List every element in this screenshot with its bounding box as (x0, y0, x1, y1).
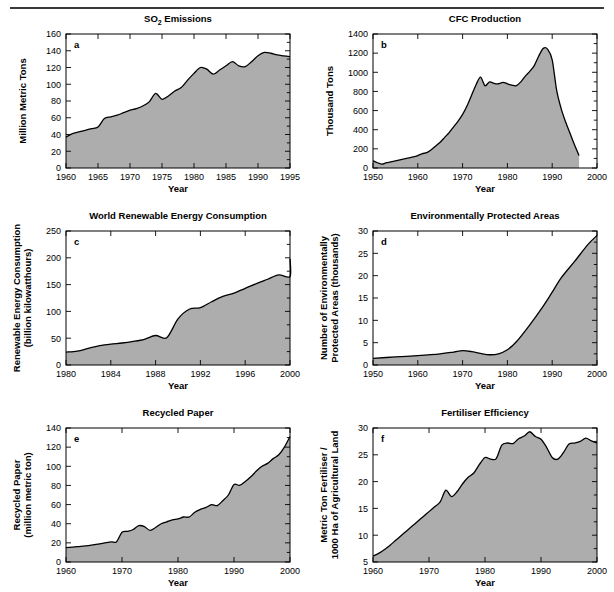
x-axis-label: Year (168, 380, 188, 391)
chart-panel-world-renewable-energy-consumption: World Renewable Energy Consumption050100… (0, 197, 307, 394)
x-tick-label: 1960 (408, 369, 428, 379)
x-tick-label: 1985 (216, 172, 236, 182)
chart-svg-recycled-paper: Recycled Paper02040608010012014019601970… (0, 394, 307, 591)
panel-letter: f (381, 433, 385, 444)
x-tick-label: 1965 (88, 172, 108, 182)
x-tick-label: 2000 (587, 172, 607, 182)
y-tick-label: 160 (46, 29, 61, 39)
area-fill (66, 259, 291, 365)
chart-svg-fertiliser-efficiency: Fertiliser Efficiency5101520253019601970… (307, 394, 614, 591)
x-tick-label: 1980 (475, 566, 495, 576)
y-tick-label: 40 (51, 519, 61, 529)
y-tick-label: 600 (353, 106, 368, 116)
y-tick-label: 80 (51, 481, 61, 491)
figure-panel-grid: SO2 Emissions020406080100120140160196019… (0, 0, 614, 592)
panel-letter: b (381, 39, 387, 50)
y-tick-label: 30 (358, 423, 368, 433)
y-axis-label: (billion kilowatthours) (22, 249, 33, 348)
y-tick-label: 800 (353, 87, 368, 97)
y-tick-label: 120 (46, 63, 61, 73)
x-tick-label: 1975 (152, 172, 172, 182)
x-tick-label: 1992 (190, 369, 210, 379)
y-tick-label: 40 (51, 130, 61, 140)
y-tick-label: 30 (358, 226, 368, 236)
panel-letter: e (74, 433, 79, 444)
x-tick-label: 1990 (542, 172, 562, 182)
y-tick-label: 1000 (348, 68, 368, 78)
y-tick-label: 5 (363, 338, 368, 348)
y-tick-label: 150 (46, 280, 61, 290)
x-tick-label: 1970 (112, 566, 132, 576)
x-axis-label: Year (168, 183, 188, 194)
area-fill (373, 432, 597, 562)
y-tick-label: 25 (358, 249, 368, 259)
x-axis-label: Year (475, 380, 495, 391)
x-tick-label: 1950 (363, 369, 383, 379)
x-tick-label: 2000 (280, 566, 300, 576)
y-tick-label: 10 (358, 531, 368, 541)
x-tick-label: 1984 (101, 369, 121, 379)
y-tick-label: 20 (358, 477, 368, 487)
x-tick-label: 1960 (56, 566, 76, 576)
y-axis-label: Million Metric Tons (17, 58, 28, 143)
area-fill (373, 48, 579, 168)
y-tick-label: 80 (51, 96, 61, 106)
y-tick-label: 20 (358, 271, 368, 281)
chart-title: CFC Production (449, 13, 521, 24)
y-tick-label: 50 (51, 334, 61, 344)
y-tick-label: 1400 (348, 29, 368, 39)
panel-letter: d (381, 236, 387, 247)
y-tick-label: 25 (358, 450, 368, 460)
y-tick-label: 60 (51, 113, 61, 123)
x-tick-label: 1970 (419, 566, 439, 576)
chart-panel-fertiliser-efficiency: Fertiliser Efficiency5101520253019601970… (307, 394, 614, 591)
chart-panel-recycled-paper: Recycled Paper02040608010012014019601970… (0, 394, 307, 591)
x-tick-label: 1980 (184, 172, 204, 182)
y-tick-label: 400 (353, 125, 368, 135)
panel-letter: a (74, 39, 80, 50)
y-tick-label: 120 (46, 442, 61, 452)
x-tick-label: 2000 (587, 369, 607, 379)
y-tick-label: 140 (46, 46, 61, 56)
x-tick-label: 1995 (280, 172, 300, 182)
y-tick-label: 200 (46, 253, 61, 263)
y-tick-label: 20 (51, 147, 61, 157)
x-tick-label: 1990 (224, 566, 244, 576)
y-tick-label: 100 (46, 307, 61, 317)
x-tick-label: 1970 (120, 172, 140, 182)
x-tick-label: 1950 (363, 172, 383, 182)
chart-panel-environmentally-protected-areas: Environmentally Protected Areas051015202… (307, 197, 614, 394)
x-tick-label: 1970 (453, 172, 473, 182)
x-tick-label: 1960 (56, 172, 76, 182)
x-tick-label: 1988 (146, 369, 166, 379)
y-tick-label: 100 (46, 80, 61, 90)
x-tick-label: 1960 (408, 172, 428, 182)
chart-svg-world-renewable-energy-consumption: World Renewable Energy Consumption050100… (0, 197, 307, 394)
y-axis-label: Protected Areas (thousands) (329, 233, 340, 363)
chart-svg-environmentally-protected-areas: Environmentally Protected Areas051015202… (307, 197, 614, 394)
y-tick-label: 10 (358, 316, 368, 326)
x-tick-label: 2000 (280, 369, 300, 379)
y-tick-label: 140 (46, 423, 61, 433)
y-tick-label: 60 (51, 500, 61, 510)
chart-title: SO2 Emissions (144, 13, 212, 26)
x-tick-label: 1990 (531, 566, 551, 576)
panel-letter: c (74, 236, 79, 247)
y-axis-label: Thousand Tons (324, 66, 335, 136)
y-tick-label: 200 (353, 144, 368, 154)
y-axis-label: Recycled Paper (11, 459, 22, 530)
x-tick-label: 1990 (248, 172, 268, 182)
y-tick-label: 20 (51, 538, 61, 548)
y-tick-label: 15 (358, 293, 368, 303)
x-tick-label: 2000 (587, 566, 607, 576)
x-tick-label: 1980 (168, 566, 188, 576)
x-axis-label: Year (168, 577, 188, 588)
x-axis-label: Year (475, 577, 495, 588)
chart-title: Recycled Paper (143, 407, 214, 418)
chart-svg-so2-emissions: SO2 Emissions020406080100120140160196019… (0, 0, 307, 197)
chart-title: Environmentally Protected Areas (410, 210, 559, 221)
y-tick-label: 250 (46, 226, 61, 236)
x-tick-label: 1990 (542, 369, 562, 379)
chart-panel-cfc-production: CFC Production02004006008001000120014001… (307, 0, 614, 197)
chart-svg-cfc-production: CFC Production02004006008001000120014001… (307, 0, 614, 197)
